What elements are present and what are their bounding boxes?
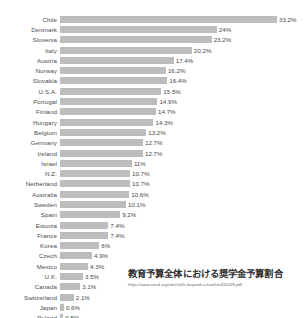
bar-value-label: 14.7%: [156, 108, 176, 115]
bar-category-label: Japan: [0, 304, 60, 311]
bar-value-label: 0.5%: [63, 314, 79, 318]
bar-row: Australia10.6%: [0, 189, 306, 199]
bar-category-label: N.Z.: [0, 170, 60, 177]
bar-row: Ireland12.7%: [0, 148, 306, 158]
bar-fill: [60, 36, 212, 43]
bar-fill: [60, 191, 129, 198]
bar-track: 24%: [60, 26, 306, 33]
bar-track: 14.9%: [60, 98, 306, 105]
bar-fill: [60, 263, 88, 270]
bar-category-label: Slovakia: [0, 77, 60, 84]
bar-fill: [60, 252, 92, 259]
bar-value-label: 10.1%: [126, 201, 146, 208]
bar-fill: [60, 180, 130, 187]
bar-row: France7.4%: [0, 230, 306, 240]
bar-row: Slovakia16.4%: [0, 76, 306, 86]
bar-track: 9.2%: [60, 211, 306, 218]
bar-row: Chile33.2%: [0, 14, 306, 24]
bar-category-label: Israel: [0, 160, 60, 167]
bar-track: 10.1%: [60, 201, 306, 208]
bar-category-label: Sweden: [0, 201, 60, 208]
bar-fill: [60, 222, 108, 229]
bar-fill: [60, 119, 153, 126]
bar-track: 0.5%: [60, 314, 306, 318]
bar-row: Korea6%: [0, 241, 306, 251]
bar-fill: [60, 108, 156, 115]
bar-value-label: 10.7%: [130, 180, 150, 187]
bar-fill: [60, 57, 174, 64]
bar-row: Norway16.2%: [0, 65, 306, 75]
bar-row: Belgium13.2%: [0, 127, 306, 137]
scholarship-budget-share-bar-chart: Chile33.2%Denmark24%Slovenia23.2%Italy20…: [0, 0, 306, 318]
bar-category-label: Chile: [0, 16, 60, 23]
bar-track: 0.6%: [60, 304, 306, 311]
bar-fill: [60, 67, 166, 74]
bar-fill: [60, 201, 126, 208]
bar-category-label: Hungary: [0, 119, 60, 126]
bar-value-label: 23.2%: [212, 36, 232, 43]
bar-row: Germany12.7%: [0, 138, 306, 148]
bar-value-label: 0.6%: [64, 304, 80, 311]
bar-row: Sweden10.1%: [0, 199, 306, 209]
bar-category-label: Estonia: [0, 222, 60, 229]
bar-track: 16.4%: [60, 77, 306, 84]
bar-value-label: 7.4%: [108, 232, 124, 239]
bar-track: 11%: [60, 160, 306, 167]
bar-value-label: 20.2%: [192, 47, 212, 54]
bar-category-label: Poland: [0, 314, 60, 318]
bar-track: 33.2%: [60, 16, 306, 23]
bar-fill: [60, 294, 74, 301]
bar-row: Czech4.9%: [0, 251, 306, 261]
bar-track: 4.9%: [60, 252, 306, 259]
bar-category-label: Portugal: [0, 98, 60, 105]
bar-category-label: Mexico: [0, 263, 60, 270]
bar-category-label: Canada: [0, 283, 60, 290]
bar-fill: [60, 283, 80, 290]
bar-category-label: Finland: [0, 108, 60, 115]
bar-row: Italy20.2%: [0, 45, 306, 55]
bar-value-label: 12.7%: [143, 150, 163, 157]
bar-value-label: 4.9%: [92, 252, 108, 259]
bar-track: 23.2%: [60, 36, 306, 43]
bar-value-label: 9.2%: [120, 211, 136, 218]
bar-category-label: France: [0, 232, 60, 239]
bar-track: 10.7%: [60, 180, 306, 187]
bar-value-label: 10.7%: [130, 170, 150, 177]
bar-category-label: Spain: [0, 211, 60, 218]
bar-fill: [60, 242, 99, 249]
bar-fill: [60, 16, 277, 23]
bar-track: 14.7%: [60, 108, 306, 115]
bar-category-label: Switzerland: [0, 294, 60, 301]
bar-value-label: 7.4%: [108, 222, 124, 229]
bar-category-label: Denmark: [0, 26, 60, 33]
bar-value-label: 4.3%: [88, 263, 104, 270]
bar-category-label: Germany: [0, 139, 60, 146]
bar-fill: [60, 26, 217, 33]
bar-row: Estonia7.4%: [0, 220, 306, 230]
bar-value-label: 13.2%: [146, 129, 166, 136]
bar-value-label: 17.4%: [174, 57, 194, 64]
bar-category-label: Norway: [0, 67, 60, 74]
bar-track: 16.2%: [60, 67, 306, 74]
bar-value-label: 24%: [217, 26, 231, 33]
bar-category-label: Italy: [0, 47, 60, 54]
bar-fill: [60, 88, 161, 95]
bar-fill: [60, 160, 132, 167]
bar-value-label: 14.3%: [153, 119, 173, 126]
bar-fill: [60, 98, 157, 105]
bar-row: Hungary14.3%: [0, 117, 306, 127]
bar-row: U.S.A.15.5%: [0, 86, 306, 96]
bar-row: Denmark24%: [0, 24, 306, 34]
caption-block: 教育予算全体における奨学金予算割合 https://www.oecd.org/e…: [128, 268, 304, 288]
bar-fill: [60, 273, 83, 280]
bar-fill: [60, 47, 192, 54]
bar-value-label: 11%: [132, 160, 146, 167]
bar-value-label: 16.4%: [167, 77, 187, 84]
bar-track: 12.7%: [60, 150, 306, 157]
bar-category-label: Belgium: [0, 129, 60, 136]
bar-category-label: Ireland: [0, 150, 60, 157]
bar-row: Israel11%: [0, 158, 306, 168]
bar-row: N.Z.10.7%: [0, 168, 306, 178]
bar-fill: [60, 170, 130, 177]
bar-fill: [60, 232, 108, 239]
